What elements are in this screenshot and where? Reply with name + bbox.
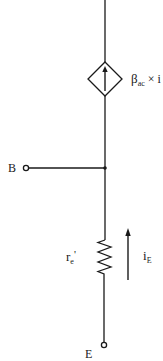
emitter-terminal: E (85, 342, 107, 361)
resistor-label: re' (66, 248, 76, 266)
emitter-terminal-label: E (85, 347, 92, 361)
resistor-zigzag-icon (98, 240, 111, 278)
current-source-label: βac × i (131, 71, 162, 88)
base-terminal-label: B (8, 161, 16, 175)
dependent-current-source (88, 62, 122, 96)
circuit-diagram: βac × i B re' iE E (0, 0, 163, 361)
base-terminal-node-icon (23, 165, 28, 170)
emitter-current-indicator (125, 228, 130, 280)
emitter-current-label: iE (143, 248, 152, 265)
base-terminal: B (8, 161, 105, 175)
emitter-terminal-node-icon (101, 342, 106, 347)
resistor-re (98, 240, 111, 278)
emitter-current-arrowhead-icon (125, 228, 130, 236)
source-arrowhead-icon (102, 66, 107, 72)
